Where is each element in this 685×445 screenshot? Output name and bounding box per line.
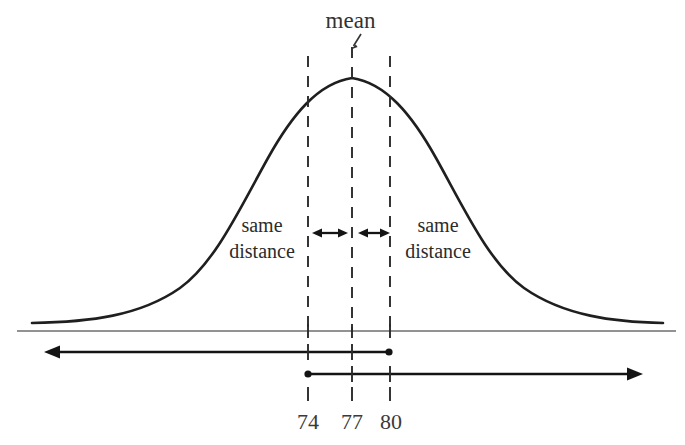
axis-tick-label-77: 77 [341, 409, 363, 435]
bell-curve-svg [0, 0, 685, 445]
same-distance-left-line1: same [196, 212, 328, 238]
axis-tick-label-80: 80 [380, 409, 402, 435]
left-ray-from-80 [44, 344, 393, 360]
axis-tick-label-74: 74 [297, 409, 319, 435]
bell-curve-figure: mean same distance same distance 74 77 8… [0, 0, 685, 445]
same-distance-left-line2: distance [196, 238, 328, 264]
right-ray-from-74 [304, 366, 643, 382]
same-distance-right-line2: distance [372, 238, 504, 264]
same-distance-label-right: same distance [372, 212, 504, 264]
mean-label: mean [8, 8, 685, 34]
same-distance-right-line1: same [372, 212, 504, 238]
same-distance-label-left: same distance [196, 212, 328, 264]
normal-distribution-curve [32, 78, 663, 323]
axis-tick-labels: 74 77 80 [0, 409, 685, 439]
